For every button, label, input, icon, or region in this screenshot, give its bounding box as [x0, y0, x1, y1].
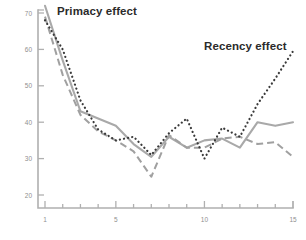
- y-tick-label: 50: [25, 82, 33, 89]
- serial-position-chart: 203040506070 151015 Primacy effect Recen…: [0, 0, 306, 240]
- y-tick-label: 60: [25, 46, 33, 53]
- chart-series: [45, 6, 293, 177]
- y-tick-label: 70: [25, 10, 33, 17]
- x-tick-labels: 151015: [43, 216, 297, 223]
- x-tick-label: 10: [201, 216, 209, 223]
- x-tick-label: 15: [289, 216, 297, 223]
- x-tick-marks: [45, 201, 293, 208]
- y-tick-label: 20: [25, 192, 33, 199]
- y-tick-marks: [38, 13, 44, 195]
- y-tick-labels: 203040506070: [25, 10, 33, 199]
- chart-plot-area: 203040506070 151015: [0, 0, 306, 240]
- y-tick-label: 40: [25, 119, 33, 126]
- x-tick-label: 1: [43, 216, 47, 223]
- y-tick-label: 30: [25, 155, 33, 162]
- primacy-effect-label: Primacy effect: [57, 6, 137, 18]
- x-tick-label: 5: [114, 216, 118, 223]
- recency-effect-label: Recency effect: [204, 41, 287, 53]
